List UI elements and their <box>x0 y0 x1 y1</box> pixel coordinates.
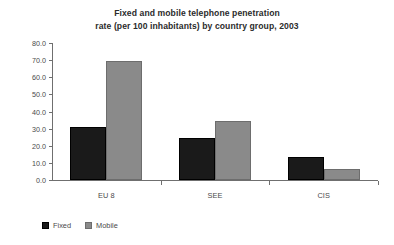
y-tick-label: 20.0 <box>32 141 46 150</box>
bar-cis-fixed <box>288 157 324 180</box>
y-tick-mark <box>49 94 52 95</box>
x-tick-mark <box>161 181 162 185</box>
y-tick-label: 70.0 <box>32 56 46 65</box>
y-tick-label: 50.0 <box>32 90 46 99</box>
y-tick-mark <box>49 163 52 164</box>
y-tick-label: 40.0 <box>32 107 46 116</box>
legend-swatch-mobile-icon <box>85 222 92 229</box>
bar-see-fixed <box>179 138 215 180</box>
x-tick-label: EU 8 <box>98 191 114 200</box>
chart-title-line-1: Fixed and mobile telephone penetration <box>0 7 394 20</box>
y-tick-label: 0.0 <box>36 176 46 185</box>
x-tick-mark <box>378 181 379 185</box>
bar-eu-8-fixed <box>70 127 106 180</box>
y-tick-mark <box>49 43 52 44</box>
y-axis-line <box>52 43 53 181</box>
bar-eu-8-mobile <box>106 61 142 180</box>
y-tick-mark <box>49 60 52 61</box>
chart-figure: Fixed and mobile telephone penetration r… <box>0 0 394 245</box>
legend-item-mobile: Mobile <box>85 221 118 230</box>
x-tick-label: SEE <box>208 191 223 200</box>
y-tick-mark <box>49 180 52 181</box>
y-tick-label: 30.0 <box>32 124 46 133</box>
legend-swatch-fixed-icon <box>42 222 49 229</box>
chart-legend: Fixed Mobile <box>42 221 118 230</box>
y-tick-mark <box>49 146 52 147</box>
y-tick-label: 10.0 <box>32 158 46 167</box>
bar-see-mobile <box>215 121 251 180</box>
chart-title-line-2: rate (per 100 inhabitants) by country gr… <box>0 20 394 33</box>
legend-item-fixed: Fixed <box>42 221 71 230</box>
legend-label-mobile: Mobile <box>96 221 118 230</box>
y-tick-mark <box>49 129 52 130</box>
y-tick-mark <box>49 77 52 78</box>
legend-label-fixed: Fixed <box>53 221 71 230</box>
y-tick-mark <box>49 112 52 113</box>
chart-title: Fixed and mobile telephone penetration r… <box>0 7 394 32</box>
x-axis-line <box>52 180 378 181</box>
plot-area: 0.010.020.030.040.050.060.070.080.0 EU 8… <box>52 43 378 180</box>
x-tick-mark <box>269 181 270 185</box>
x-tick-label: CIS <box>317 191 329 200</box>
bar-cis-mobile <box>324 169 360 180</box>
y-tick-label: 60.0 <box>32 73 46 82</box>
y-tick-label: 80.0 <box>32 39 46 48</box>
